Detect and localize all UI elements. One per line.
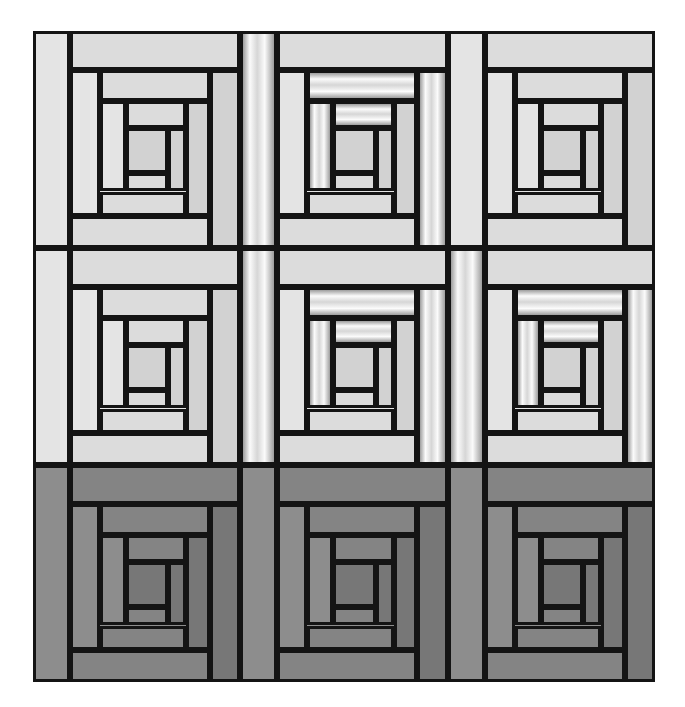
quilt-log-2-top bbox=[277, 248, 447, 287]
quilt-log-1-left bbox=[240, 465, 277, 682]
quilt-log-7-right bbox=[601, 535, 625, 650]
quilt-log-6-top bbox=[515, 504, 625, 536]
quilt-log-7-right bbox=[186, 101, 210, 216]
quilt-log-12-bottom bbox=[333, 173, 375, 192]
quilt-log-10-top bbox=[333, 101, 393, 128]
quilt-log-4-bottom bbox=[277, 216, 417, 248]
quilt-log-center bbox=[541, 562, 583, 606]
quilt-log-7-right bbox=[186, 318, 210, 433]
quilt-block-r2c2 bbox=[240, 248, 447, 465]
quilt-log-7-right bbox=[394, 318, 418, 433]
quilt-log-5-left bbox=[485, 287, 515, 434]
quilt-log-8-bottom bbox=[100, 409, 186, 434]
quilt-log-11-right bbox=[168, 562, 186, 625]
quilt-log-3-right bbox=[625, 70, 655, 248]
quilt-log-3-right bbox=[210, 70, 240, 248]
quilt-log-center bbox=[126, 128, 168, 172]
quilt-log-11-right bbox=[583, 562, 601, 625]
quilt-log-8-bottom bbox=[515, 409, 601, 434]
quilt-log-3-right bbox=[625, 287, 655, 465]
quilt-log-5-left bbox=[70, 70, 100, 217]
quilt-log-9-left bbox=[100, 318, 126, 408]
quilt-log-2-top bbox=[277, 31, 447, 70]
quilt-log-3-right bbox=[210, 504, 240, 682]
quilt-log-4-bottom bbox=[70, 216, 210, 248]
quilt-block-r3c2 bbox=[240, 465, 447, 682]
quilt-log-2-top bbox=[485, 465, 655, 504]
quilt-log-9-left bbox=[515, 535, 541, 625]
quilt-log-11-right bbox=[376, 128, 394, 191]
quilt-log-7-right bbox=[394, 101, 418, 216]
quilt-log-9-left bbox=[100, 101, 126, 191]
quilt-log-4-bottom bbox=[70, 650, 210, 682]
quilt-block-r1c3 bbox=[448, 31, 655, 248]
quilt-log-3-right bbox=[417, 504, 447, 682]
quilt-log-7-right bbox=[601, 101, 625, 216]
quilt-log-6-top bbox=[100, 504, 210, 536]
quilt-log-2-top bbox=[485, 248, 655, 287]
quilt-log-center bbox=[333, 562, 375, 606]
quilt-log-center bbox=[541, 345, 583, 389]
quilt-log-center bbox=[333, 345, 375, 389]
quilt-log-2-top bbox=[485, 31, 655, 70]
quilt-log-8-bottom bbox=[515, 626, 601, 651]
quilt-canvas bbox=[0, 0, 685, 707]
quilt-log-12-bottom bbox=[541, 390, 583, 409]
quilt-log-10-top bbox=[333, 535, 393, 562]
quilt-grid bbox=[33, 31, 655, 682]
quilt-log-2-top bbox=[70, 31, 240, 70]
quilt-log-12-bottom bbox=[126, 173, 168, 192]
quilt-block-r3c1 bbox=[33, 465, 240, 682]
quilt-log-7-right bbox=[394, 535, 418, 650]
quilt-log-4-bottom bbox=[277, 433, 417, 465]
quilt-log-6-top bbox=[100, 287, 210, 319]
quilt-log-9-left bbox=[307, 318, 333, 408]
quilt-log-11-right bbox=[168, 345, 186, 408]
quilt-log-6-top bbox=[515, 287, 625, 319]
quilt-log-1-left bbox=[448, 248, 485, 465]
quilt-log-6-top bbox=[307, 287, 417, 319]
quilt-log-8-bottom bbox=[515, 192, 601, 217]
quilt-log-center bbox=[541, 128, 583, 172]
quilt-log-5-left bbox=[277, 70, 307, 217]
quilt-log-4-bottom bbox=[485, 433, 625, 465]
quilt-log-8-bottom bbox=[100, 626, 186, 651]
quilt-log-5-left bbox=[70, 287, 100, 434]
quilt-log-7-right bbox=[186, 535, 210, 650]
quilt-log-5-left bbox=[485, 70, 515, 217]
quilt-log-4-bottom bbox=[277, 650, 417, 682]
quilt-log-2-top bbox=[70, 465, 240, 504]
quilt-log-11-right bbox=[168, 128, 186, 191]
quilt-log-3-right bbox=[625, 504, 655, 682]
quilt-log-6-top bbox=[307, 504, 417, 536]
quilt-log-3-right bbox=[417, 287, 447, 465]
quilt-block-r2c3 bbox=[448, 248, 655, 465]
quilt-log-4-bottom bbox=[485, 216, 625, 248]
quilt-log-8-bottom bbox=[307, 192, 393, 217]
quilt-log-8-bottom bbox=[307, 409, 393, 434]
quilt-log-2-top bbox=[277, 465, 447, 504]
quilt-log-center bbox=[333, 128, 375, 172]
quilt-log-1-left bbox=[33, 465, 70, 682]
quilt-log-center bbox=[126, 345, 168, 389]
quilt-block-r3c3 bbox=[448, 465, 655, 682]
quilt-log-1-left bbox=[33, 248, 70, 465]
quilt-log-4-bottom bbox=[70, 433, 210, 465]
quilt-block-r1c2 bbox=[240, 31, 447, 248]
quilt-log-11-right bbox=[583, 128, 601, 191]
quilt-log-5-left bbox=[485, 504, 515, 651]
quilt-log-6-top bbox=[515, 70, 625, 102]
quilt-block-r2c1 bbox=[33, 248, 240, 465]
quilt-log-5-left bbox=[277, 287, 307, 434]
quilt-log-12-bottom bbox=[541, 173, 583, 192]
quilt-log-1-left bbox=[240, 31, 277, 248]
quilt-log-1-left bbox=[448, 31, 485, 248]
quilt-log-5-left bbox=[70, 504, 100, 651]
quilt-log-9-left bbox=[307, 101, 333, 191]
quilt-log-9-left bbox=[307, 535, 333, 625]
quilt-block-r1c1 bbox=[33, 31, 240, 248]
quilt-log-10-top bbox=[126, 535, 186, 562]
quilt-log-center bbox=[126, 562, 168, 606]
quilt-log-1-left bbox=[240, 248, 277, 465]
quilt-log-10-top bbox=[126, 318, 186, 345]
